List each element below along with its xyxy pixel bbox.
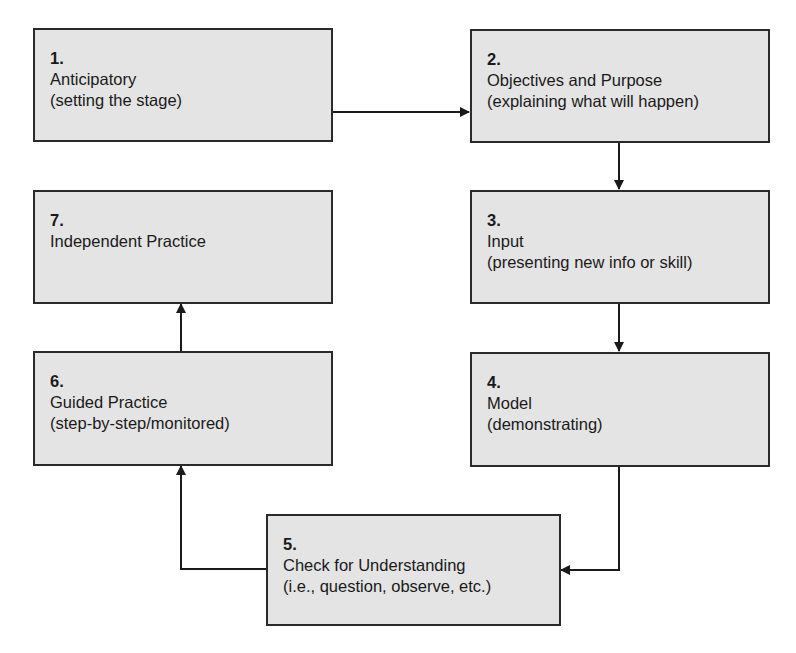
step-number: 3. [487, 210, 768, 231]
step-title: Objectives and Purpose [487, 70, 768, 91]
step-title: Independent Practice [50, 231, 331, 252]
step-title: Model [487, 393, 768, 414]
step-4-model: 4. Model (demonstrating) [470, 352, 770, 467]
step-number: 1. [50, 48, 331, 69]
step-5-check-for-understanding: 5. Check for Understanding (i.e., questi… [266, 514, 561, 626]
step-1-anticipatory: 1. Anticipatory (setting the stage) [33, 28, 333, 142]
arrow-4-to-5 [561, 466, 619, 570]
step-description: (explaining what will happen) [487, 91, 768, 112]
step-title: Input [487, 231, 768, 252]
step-number: 4. [487, 372, 768, 393]
step-title: Check for Understanding [283, 555, 559, 576]
step-title: Guided Practice [50, 392, 331, 413]
step-description: (i.e., question, observe, etc.) [283, 576, 559, 597]
step-number: 5. [283, 534, 559, 555]
step-number: 7. [50, 210, 331, 231]
step-title: Anticipatory [50, 69, 331, 90]
step-description: (setting the stage) [50, 90, 331, 111]
step-number: 2. [487, 49, 768, 70]
step-2-objectives-purpose: 2. Objectives and Purpose (explaining wh… [470, 29, 770, 143]
step-description: (presenting new info or skill) [487, 252, 768, 273]
step-3-input: 3. Input (presenting new info or skill) [470, 190, 770, 304]
step-description: (demonstrating) [487, 414, 768, 435]
step-description: (step-by-step/monitored) [50, 413, 331, 434]
step-7-independent-practice: 7. Independent Practice [33, 190, 333, 304]
step-number: 6. [50, 371, 331, 392]
step-6-guided-practice: 6. Guided Practice (step-by-step/monitor… [33, 351, 333, 466]
arrow-5-to-6 [181, 466, 266, 569]
